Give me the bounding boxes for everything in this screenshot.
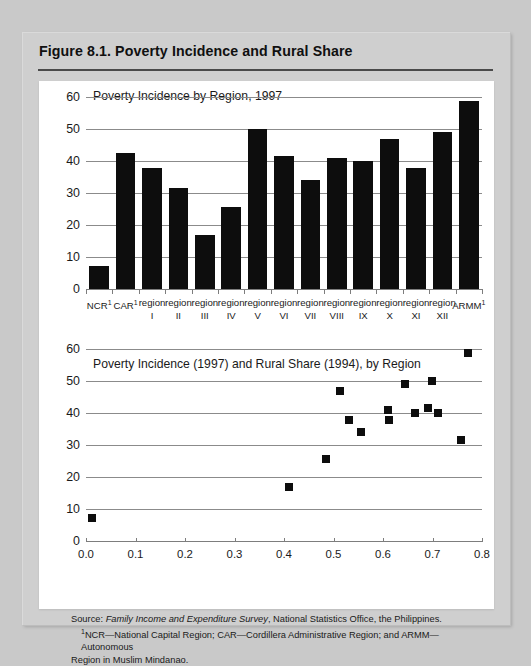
y-axis-tick-label: 60	[66, 342, 80, 356]
footnote-line-2: Region in Muslim Mindanao.	[71, 654, 491, 666]
gridline	[86, 445, 482, 446]
x-axis-tick	[192, 289, 193, 294]
bar-chart: Poverty Incidence by Region, 1997 010203…	[39, 81, 494, 341]
x-axis-tick	[86, 289, 87, 294]
bar	[142, 168, 162, 289]
bar	[380, 139, 400, 289]
x-axis-tick	[482, 538, 483, 542]
x-axis-tick-label: 0.3	[227, 548, 243, 560]
charts-panel: Poverty Incidence by Region, 1997 010203…	[39, 81, 494, 609]
bar-category-sublabel: XII	[424, 310, 460, 321]
title-divider	[38, 69, 493, 71]
y-axis-tick-label: 50	[66, 122, 80, 136]
bar	[274, 156, 294, 289]
y-axis-tick-label: 60	[66, 90, 80, 104]
x-axis-tick	[403, 289, 404, 294]
x-axis-tick-label: 0.4	[276, 548, 292, 560]
scatter-point	[424, 404, 432, 412]
bar	[433, 132, 453, 289]
gridline	[86, 289, 482, 290]
figure-notes: Source: Family Income and Expenditure Su…	[71, 613, 491, 666]
scatter-point	[357, 428, 365, 436]
bar	[459, 101, 479, 289]
x-axis-tick	[433, 538, 434, 542]
scatter-point	[385, 416, 393, 424]
gridline	[86, 97, 482, 98]
figure-title: Figure 8.1. Poverty Incidence and Rural …	[39, 43, 489, 59]
y-axis-tick-label: 10	[66, 250, 80, 264]
y-axis-tick-label: 50	[66, 374, 80, 388]
scatter-point	[457, 436, 465, 444]
x-axis-tick	[165, 289, 166, 294]
scatter-point	[88, 514, 96, 522]
bar	[301, 180, 321, 289]
x-axis-tick	[482, 289, 483, 294]
scatter-point	[411, 409, 419, 417]
y-axis-tick-label: 30	[66, 438, 80, 452]
bar	[169, 188, 189, 289]
gridline	[86, 381, 482, 382]
scatter-point	[401, 380, 409, 388]
bar	[89, 266, 109, 289]
x-axis-tick	[139, 289, 140, 294]
scatter-point	[428, 377, 436, 385]
x-axis-tick	[185, 538, 186, 542]
figure-container: Figure 8.1. Poverty Incidence and Rural …	[22, 32, 510, 625]
x-axis-tick-label: 0.0	[78, 548, 94, 560]
x-axis-tick	[429, 289, 430, 294]
x-axis-tick	[383, 538, 384, 542]
gridline	[86, 477, 482, 478]
bar	[116, 153, 136, 289]
x-axis-tick	[350, 289, 351, 294]
bar-plot-area	[86, 97, 482, 289]
bar	[221, 207, 241, 289]
footnote-marker: 1	[481, 299, 485, 306]
y-axis-tick-label: 0	[73, 534, 80, 548]
source-label: Source:	[71, 614, 103, 624]
bar	[353, 161, 373, 289]
x-axis-tick-label: 0.6	[375, 548, 391, 560]
bar-category-label: ARMM1	[451, 297, 487, 311]
source-publication: Family Income and Expenditure Survey	[106, 614, 268, 624]
gridline	[86, 413, 482, 414]
x-axis-tick	[324, 289, 325, 294]
x-axis-tick	[244, 289, 245, 294]
gridline	[86, 129, 482, 130]
scatter-point	[384, 406, 392, 414]
gridline	[86, 349, 482, 350]
scatter-point	[322, 455, 330, 463]
scatter-point	[336, 387, 344, 395]
bar	[195, 235, 215, 289]
scatter-plot-area	[86, 349, 482, 541]
y-axis-tick-label: 30	[66, 186, 80, 200]
x-axis-tick	[112, 289, 113, 294]
bar	[327, 158, 347, 289]
source-rest: , National Statistics Office, the Philip…	[268, 614, 442, 624]
bar	[406, 168, 426, 289]
x-axis-tick-label: 0.2	[177, 548, 193, 560]
x-axis-tick	[235, 538, 236, 542]
gridline	[86, 509, 482, 510]
y-axis-tick-label: 40	[66, 154, 80, 168]
x-axis-tick-label: 0.5	[326, 548, 342, 560]
y-axis-tick-label: 40	[66, 406, 80, 420]
x-axis-tick-label: 0.8	[474, 548, 490, 560]
y-axis-tick-label: 0	[73, 282, 80, 296]
source-line: Source: Family Income and Expenditure Su…	[71, 613, 491, 626]
scatter-point	[434, 409, 442, 417]
x-axis-tick	[284, 538, 285, 542]
scatter-point	[285, 483, 293, 491]
bar	[248, 129, 268, 289]
x-axis-tick	[218, 289, 219, 294]
x-axis-tick	[376, 289, 377, 294]
y-axis-tick-label: 20	[66, 470, 80, 484]
x-axis-tick	[297, 289, 298, 294]
x-axis-tick	[334, 538, 335, 542]
footnote-line-1: 1NCR—National Capital Region; CAR—Cordil…	[71, 626, 491, 654]
x-axis-tick-label: 0.1	[128, 548, 144, 560]
footnote-text-1: NCR—National Capital Region; CAR—Cordill…	[81, 630, 439, 653]
x-axis-tick-label: 0.7	[425, 548, 441, 560]
scatter-point	[345, 416, 353, 424]
y-axis-tick-label: 10	[66, 502, 80, 516]
